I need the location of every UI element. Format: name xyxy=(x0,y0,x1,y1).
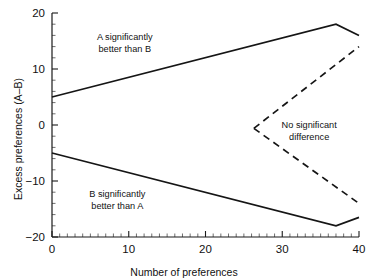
y-axis-tick-labels: −20−1001020 xyxy=(25,7,45,243)
svg-text:20: 20 xyxy=(32,7,45,19)
svg-text:20: 20 xyxy=(199,243,212,255)
annotation-region-no-difference: No significantdifference xyxy=(282,120,337,143)
series-line xyxy=(254,47,359,129)
svg-text:0: 0 xyxy=(39,119,45,131)
x-axis-title: Number of preferences xyxy=(0,266,368,278)
annotation-region-a-better: A significantlybetter than B xyxy=(97,32,153,55)
y-axis-title: Excess preferences (A–B) xyxy=(12,78,24,200)
svg-text:10: 10 xyxy=(32,63,45,75)
svg-text:−10: −10 xyxy=(25,175,45,187)
chart-container: 010203040 −20−1001020 A significantlybet… xyxy=(0,0,368,278)
svg-text:−20: −20 xyxy=(25,231,45,243)
x-axis-tick-labels: 010203040 xyxy=(49,243,366,255)
svg-text:0: 0 xyxy=(49,243,55,255)
annotation-region-b-better: B significantlybetter than A xyxy=(89,189,145,212)
svg-text:10: 10 xyxy=(122,243,135,255)
svg-text:40: 40 xyxy=(353,243,366,255)
svg-text:30: 30 xyxy=(276,243,289,255)
